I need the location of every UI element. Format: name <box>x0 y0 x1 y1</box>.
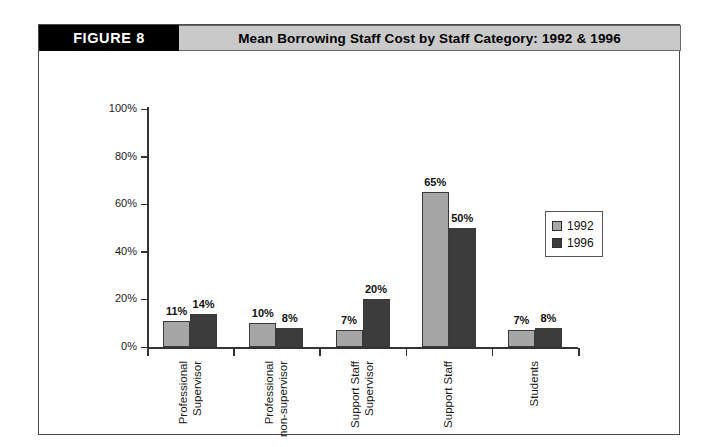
figure-frame: FIGURE 8 Mean Borrowing Staff Cost by St… <box>38 24 680 435</box>
y-axis-label-wrap: 0% <box>87 347 137 361</box>
y-axis-label: 80% <box>91 150 137 162</box>
bar-value-label: 8% <box>270 312 310 324</box>
legend-item-1992: 1992 <box>552 217 594 234</box>
y-axis-label: 100% <box>91 102 137 114</box>
bar-1992-4 <box>508 330 535 347</box>
bar-1996-0 <box>190 314 217 347</box>
y-axis-label: 20% <box>91 292 137 304</box>
legend-label: 1996 <box>567 236 594 250</box>
x-axis-line <box>147 347 578 349</box>
x-axis-tick <box>406 348 408 356</box>
bar-value-label: 65% <box>415 176 455 188</box>
y-axis-label-wrap: 60% <box>87 204 137 218</box>
figure-badge: FIGURE 8 <box>39 25 179 51</box>
y-axis-label-wrap: 80% <box>87 157 137 171</box>
bar-1996-4 <box>535 328 562 347</box>
x-axis-tick <box>147 348 149 356</box>
category-label-line: non-supervisor <box>277 361 290 437</box>
category-label-line: Support Staff <box>349 361 362 428</box>
figure-title-bar: Mean Borrowing Staff Cost by Staff Categ… <box>179 25 681 51</box>
chart-plot-area: 0%20%40%60%80%100% 11%14%10%8%7%20%65%50… <box>39 51 681 436</box>
y-axis-tick <box>141 109 148 111</box>
y-axis-label: 40% <box>91 245 137 257</box>
bar-value-label: 14% <box>184 298 224 310</box>
category-label-4: Students <box>527 361 542 447</box>
y-axis-label: 60% <box>91 197 137 209</box>
bar-1992-1 <box>249 323 276 347</box>
y-axis-tick <box>141 204 148 206</box>
legend-item-1996: 1996 <box>552 234 594 251</box>
y-axis-label-wrap: 40% <box>87 252 137 266</box>
category-label-line: Students <box>528 361 541 406</box>
category-label-line: Professional <box>177 361 190 424</box>
category-label-line: Support Staff <box>442 361 455 428</box>
y-axis-line <box>147 107 149 348</box>
legend-swatch-1992 <box>552 221 562 231</box>
category-label-line: Supervisor <box>191 361 204 416</box>
bar-1992-0 <box>163 321 190 347</box>
figure-title: Mean Borrowing Staff Cost by Staff Categ… <box>238 31 621 46</box>
bar-1996-3 <box>449 228 476 347</box>
y-axis-label-wrap: 100% <box>87 109 137 123</box>
bar-value-label: 8% <box>528 312 568 324</box>
y-axis-tick <box>141 251 148 253</box>
category-label-3: Support Staff <box>441 361 456 447</box>
x-axis-tick <box>319 348 321 356</box>
y-axis-label-wrap: 20% <box>87 299 137 313</box>
y-axis-tick <box>141 299 148 301</box>
legend-label: 1992 <box>567 219 594 233</box>
y-axis-tick <box>141 156 148 158</box>
y-axis-label: 0% <box>91 340 137 352</box>
figure-header: FIGURE 8 Mean Borrowing Staff Cost by St… <box>39 25 681 51</box>
chart-legend: 19921996 <box>545 211 603 257</box>
bar-value-label: 20% <box>356 283 396 295</box>
category-label-2: Support StaffSupervisor <box>348 361 378 447</box>
bar-1992-2 <box>336 330 363 347</box>
category-label-line: Professional <box>263 361 276 424</box>
category-label-0: ProfessionalSupervisor <box>175 361 205 447</box>
bar-value-label: 50% <box>442 212 482 224</box>
x-axis-tick <box>492 348 494 356</box>
category-label-line: Supervisor <box>363 361 376 416</box>
bar-1996-2 <box>363 299 390 347</box>
bar-1996-1 <box>276 328 303 347</box>
category-label-1: Professionalnon-supervisor <box>261 361 291 447</box>
legend-swatch-1996 <box>552 238 562 248</box>
x-axis-tick <box>233 348 235 356</box>
x-axis-tick <box>578 348 580 356</box>
